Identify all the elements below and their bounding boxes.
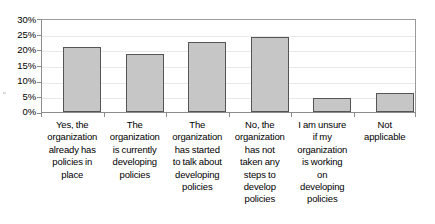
category-label-4-line-3: is working xyxy=(291,156,354,168)
category-label-4-line-5: developing xyxy=(291,181,354,193)
category-label-1: The organization is currently developing… xyxy=(104,119,167,181)
bars-layer xyxy=(41,19,416,113)
category-label-3-line-3: taken any xyxy=(229,156,292,168)
y-tick-label-5: 5% xyxy=(0,92,36,102)
category-label-1-line-1: organization xyxy=(104,131,167,143)
category-label-4-line-1: if my xyxy=(291,131,354,143)
category-label-5: Not applicable xyxy=(354,119,417,144)
category-label-4-line-4: on xyxy=(291,169,354,181)
category-label-1-line-0: The xyxy=(104,119,167,131)
category-label-3-line-0: No, the xyxy=(229,119,292,131)
y-tick-label-15: 15% xyxy=(0,61,36,71)
category-label-0-line-1: organization xyxy=(41,131,104,143)
category-label-2-line-2: has started xyxy=(166,144,229,156)
category-label-3: No, the organization has not taken any s… xyxy=(229,119,292,206)
x-tick-mark-1 xyxy=(104,113,105,117)
x-tick-mark-6 xyxy=(415,113,416,117)
category-label-5-line-1: applicable xyxy=(354,131,417,143)
category-label-3-line-6: policies xyxy=(229,193,292,205)
category-label-4-line-2: organization xyxy=(291,144,354,156)
bar-currently-developing xyxy=(126,54,164,112)
category-label-1-line-4: policies xyxy=(104,169,167,181)
category-label-2-line-4: developing xyxy=(166,169,229,181)
bar-chart: 30% 25% 20% 15% 10% 5% 0% Yes, t xyxy=(0,0,435,224)
bar-started-to-talk xyxy=(188,42,226,112)
category-label-2: The organization has started to talk abo… xyxy=(166,119,229,193)
category-label-2-line-0: The xyxy=(166,119,229,131)
category-label-3-line-1: organization xyxy=(229,131,292,143)
category-label-0-line-3: policies in xyxy=(41,156,104,168)
y-tick-label-30: 30% xyxy=(0,15,36,25)
x-tick-mark-5 xyxy=(354,113,355,117)
category-label-0-line-2: already has xyxy=(41,144,104,156)
category-label-4-line-0: I am unsure xyxy=(291,119,354,131)
y-tick-label-20: 20% xyxy=(0,45,36,55)
x-tick-mark-2 xyxy=(166,113,167,117)
y-tick-label-0: 0% xyxy=(0,107,36,117)
y-axis: 30% 25% 20% 15% 10% 5% 0% xyxy=(0,0,36,224)
category-label-0-line-0: Yes, the xyxy=(41,119,104,131)
category-label-3-line-4: steps to xyxy=(229,169,292,181)
x-axis-category-labels: Yes, the organization already has polici… xyxy=(41,119,416,224)
category-label-5-line-0: Not xyxy=(354,119,417,131)
category-label-0: Yes, the organization already has polici… xyxy=(41,119,104,181)
category-label-2-line-3: to talk about xyxy=(166,156,229,168)
x-tick-mark-0 xyxy=(41,113,42,117)
category-label-4: I am unsure if my organization is workin… xyxy=(291,119,354,206)
category-label-2-line-5: policies xyxy=(166,181,229,193)
x-tick-mark-3 xyxy=(229,113,230,117)
category-label-4-line-6: policies xyxy=(291,193,354,205)
bar-unsure xyxy=(313,98,351,112)
y-tick-label-25: 25% xyxy=(0,30,36,40)
category-label-1-line-2: is currently xyxy=(104,144,167,156)
x-tick-mark-4 xyxy=(291,113,292,117)
category-label-3-line-2: has not xyxy=(229,144,292,156)
bar-not-applicable xyxy=(376,93,414,112)
bar-yes-already-has-policies xyxy=(63,47,101,112)
y-tick-label-10: 10% xyxy=(0,76,36,86)
category-label-2-line-1: organization xyxy=(166,131,229,143)
category-label-3-line-5: develop xyxy=(229,181,292,193)
category-label-1-line-3: developing xyxy=(104,156,167,168)
bar-no-steps-taken xyxy=(251,37,289,112)
category-label-0-line-4: place xyxy=(41,169,104,181)
